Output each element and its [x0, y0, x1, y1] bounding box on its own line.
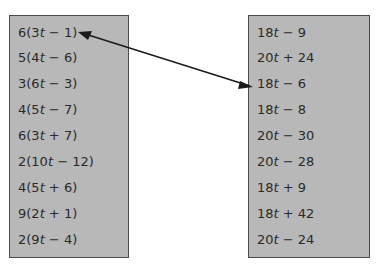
arrowhead-left-icon — [78, 31, 92, 40]
arrowhead-right-icon — [238, 81, 253, 89]
arrow-line — [82, 33, 250, 86]
connection-arrow[interactable] — [0, 0, 379, 265]
